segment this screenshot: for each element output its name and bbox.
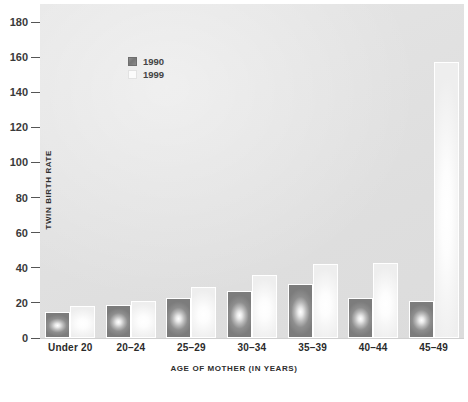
y-axis-tick-label: 40 <box>16 262 28 274</box>
y-axis-tick-mark <box>31 267 40 268</box>
bar-1990-45-49[interactable] <box>409 301 434 338</box>
y-axis-tick: 20 <box>16 297 40 309</box>
bar-1990-25-29[interactable] <box>166 298 191 338</box>
bar-group <box>409 62 459 338</box>
twin-birth-rate-bar-chart: 020406080100120140160180 TWIN BIRTH RATE… <box>0 0 468 402</box>
bar-group <box>166 287 216 338</box>
y-axis-tick-mark <box>31 127 40 128</box>
y-axis-tick-mark <box>31 232 40 233</box>
bar-1990-under-20[interactable] <box>45 312 70 338</box>
y-axis-tick-label: 80 <box>16 192 28 204</box>
y-axis-tick-mark <box>31 197 40 198</box>
y-axis-tick-label: 20 <box>16 297 28 309</box>
bar-1999-under-20[interactable] <box>70 306 95 338</box>
y-axis-tick-mark <box>31 302 40 303</box>
bar-1999-35-39[interactable] <box>313 264 338 338</box>
bar-1990-30-34[interactable] <box>227 291 252 338</box>
bar-group <box>227 275 277 338</box>
y-axis-tick: 120 <box>10 121 40 133</box>
y-axis-tick-label: 120 <box>10 121 28 133</box>
bar-group <box>288 264 338 338</box>
y-axis-tick-label: 60 <box>16 227 28 239</box>
bar-1990-35-39[interactable] <box>288 284 313 338</box>
y-axis-tick: 0 <box>22 332 40 344</box>
y-axis-tick-mark <box>31 22 40 23</box>
bar-1990-20-24[interactable] <box>106 305 131 338</box>
y-axis-tick: 80 <box>16 192 40 204</box>
bar-1999-25-29[interactable] <box>191 287 216 338</box>
bar-group <box>106 301 156 338</box>
x-axis-tick-label: 45–49 <box>403 342 464 353</box>
y-axis-tick: 60 <box>16 227 40 239</box>
y-axis-tick-mark <box>31 338 40 339</box>
bar-group <box>45 306 95 338</box>
x-axis-tick-label: 35–39 <box>282 342 343 353</box>
x-axis-tick-label: 40–44 <box>343 342 404 353</box>
y-axis-tick: 40 <box>16 262 40 274</box>
bar-1990-40-44[interactable] <box>348 298 373 338</box>
y-axis-tick-mark <box>31 57 40 58</box>
x-axis-tick-label: Under 20 <box>40 342 101 353</box>
y-axis-tick-label: 180 <box>10 16 28 28</box>
x-axis-tick-label: 20–24 <box>101 342 162 353</box>
y-axis-tick-label: 0 <box>22 332 28 344</box>
y-axis-tick-mark <box>31 92 40 93</box>
bar-groups-layer <box>40 4 464 338</box>
y-axis-tick: 100 <box>10 156 40 168</box>
bar-1999-30-34[interactable] <box>252 275 277 338</box>
bar-1999-40-44[interactable] <box>373 263 398 338</box>
bar-1999-45-49[interactable] <box>434 62 459 338</box>
y-axis-tick: 160 <box>10 51 40 63</box>
x-axis-tick-label-list: Under 2020–2425–2930–3435–3940–4445–49 <box>40 342 464 360</box>
x-axis-tick-label: 30–34 <box>222 342 283 353</box>
y-axis-tick-mark <box>31 162 40 163</box>
x-axis-baseline <box>40 338 464 339</box>
bar-group <box>348 263 398 338</box>
y-axis-tick: 180 <box>10 16 40 28</box>
y-axis-tick-label: 100 <box>10 156 28 168</box>
y-axis-tick: 140 <box>10 86 40 98</box>
y-axis-tick-list: 020406080100120140160180 <box>0 0 40 342</box>
bar-1999-20-24[interactable] <box>131 301 156 338</box>
y-axis-tick-label: 140 <box>10 86 28 98</box>
y-axis-tick-label: 160 <box>10 51 28 63</box>
x-axis-tick-label: 25–29 <box>161 342 222 353</box>
x-axis-title: AGE OF MOTHER (IN YEARS) <box>0 364 468 373</box>
